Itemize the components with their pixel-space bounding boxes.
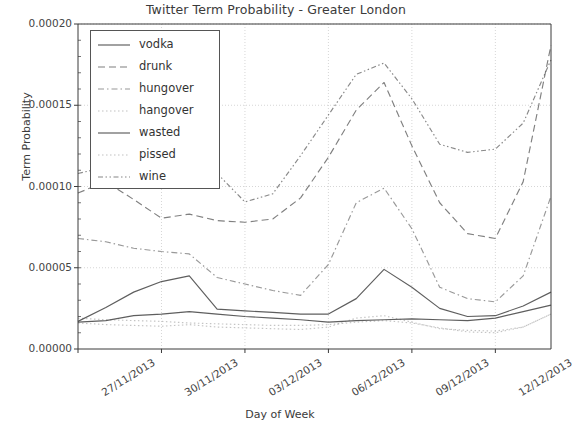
legend-line-swatch-hangover — [97, 105, 131, 117]
y-tick-label: 0.00010 — [8, 180, 72, 192]
legend-line-swatch-vodka — [97, 39, 131, 51]
legend-entry-wasted: wasted — [91, 122, 219, 144]
legend-entry-vodka: vodka — [91, 34, 219, 56]
series-line-wasted — [78, 269, 551, 321]
legend-entry-wine: wine — [91, 166, 219, 188]
x-axis-label: Day of Week — [180, 408, 380, 421]
legend-entry-hungover: hungover — [91, 78, 219, 100]
series-line-pissed — [78, 314, 551, 333]
legend-entry-drunk: drunk — [91, 56, 219, 78]
legend-line-swatch-pissed — [97, 149, 131, 161]
y-tick-label: 0.00000 — [8, 342, 72, 354]
legend-label: vodka — [139, 39, 174, 51]
legend-entry-pissed: pissed — [91, 144, 219, 166]
chart-title: Twitter Term Probability - Greater Londo… — [0, 2, 552, 17]
y-tick-label: 0.00015 — [8, 98, 72, 110]
legend-entry-hangover: hangover — [91, 100, 219, 122]
legend-label: hungover — [139, 83, 194, 95]
legend-label: wasted — [139, 127, 180, 139]
legend-label: drunk — [139, 61, 172, 73]
chart-legend: vodkadrunkhungoverhangoverwastedpissedwi… — [90, 30, 220, 189]
series-line-hungover — [78, 188, 551, 302]
y-tick-label: 0.00020 — [8, 17, 72, 29]
y-tick-label: 0.00005 — [8, 261, 72, 273]
legend-label: hangover — [139, 105, 194, 117]
legend-line-swatch-hungover — [97, 83, 131, 95]
legend-label: wine — [139, 171, 166, 183]
legend-line-swatch-drunk — [97, 61, 131, 73]
legend-line-swatch-wasted — [97, 127, 131, 139]
legend-label: pissed — [139, 149, 176, 161]
legend-line-swatch-wine — [97, 171, 131, 183]
